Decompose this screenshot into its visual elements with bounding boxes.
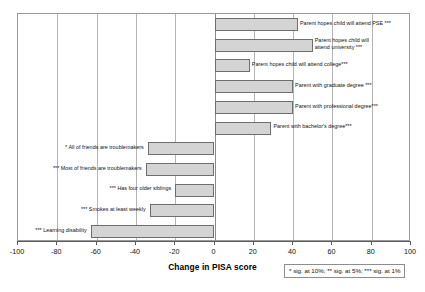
bar-label: *** Learning disability <box>0 227 87 233</box>
bar <box>215 101 294 114</box>
tick-label-100: 100 <box>393 247 425 256</box>
bar <box>215 59 250 72</box>
bar-label: Parent hopes child will attend college**… <box>252 61 348 67</box>
bar-label: Parent hopes child willattend university… <box>315 37 369 50</box>
bar <box>215 122 272 135</box>
significance-note: * sig. at 10%; ** sig. at 5%; *** sig. a… <box>284 264 405 278</box>
bar <box>215 39 313 52</box>
bar-label-line: Parent hopes child will attend college**… <box>252 61 348 67</box>
bar-label: *** Most of friends are troublemakers <box>0 165 142 171</box>
bar-label-line: Parent hopes child will attend PSE *** <box>300 20 391 26</box>
tick-label--80: -80 <box>39 247 73 256</box>
bar-label-line: Parent with professional degree*** <box>295 103 378 109</box>
bar <box>148 142 215 155</box>
tick-label-20: 20 <box>236 247 270 256</box>
tick-mark--80 <box>56 241 57 245</box>
tick-mark--20 <box>174 241 175 245</box>
tick-mark--60 <box>96 241 97 245</box>
bar <box>175 184 214 197</box>
bar <box>215 80 294 93</box>
bar-label-line: *** Most of friends are troublemakers <box>0 165 142 171</box>
bar-label-line: Parent hopes child will <box>315 37 369 43</box>
bar <box>91 225 215 238</box>
bar-label: *** Has four older siblings <box>0 185 171 191</box>
bar <box>146 163 215 176</box>
tick-label-60: 60 <box>314 247 348 256</box>
tick-mark-60 <box>331 241 332 245</box>
gridline-80 <box>372 14 373 240</box>
bar-label-line: Parent with bachelor's degree*** <box>273 123 351 129</box>
tick-mark-40 <box>292 241 293 245</box>
bar-label: Parent with graduate degree *** <box>295 82 371 88</box>
tick-label-80: 80 <box>354 247 388 256</box>
bar-label: *** Smokes at least weekly <box>0 206 146 212</box>
tick-label--60: -60 <box>79 247 113 256</box>
tick-mark-20 <box>253 241 254 245</box>
bar-label-line: *** Has four older siblings <box>0 185 171 191</box>
bar <box>150 204 215 217</box>
tick-mark--40 <box>135 241 136 245</box>
bar-label: Parent with bachelor's degree*** <box>273 123 351 129</box>
bar-label: * All of friends are troublemakers <box>0 144 144 150</box>
bar-label-line: attend university *** <box>315 44 369 50</box>
tick-label-0: 0 <box>197 247 231 256</box>
bar-label-line: * All of friends are troublemakers <box>0 144 144 150</box>
bar-label-line: *** Learning disability <box>0 227 87 233</box>
bar-label: Parent hopes child will attend PSE *** <box>300 20 391 26</box>
tick-mark-100 <box>410 241 411 245</box>
tick-label--100: -100 <box>0 247 34 256</box>
bar <box>215 18 299 31</box>
tick-mark--100 <box>17 241 18 245</box>
tick-label-40: 40 <box>275 247 309 256</box>
bar-label: Parent with professional degree*** <box>295 103 378 109</box>
tick-mark-80 <box>371 241 372 245</box>
tick-label--40: -40 <box>118 247 152 256</box>
pisa-score-bar-chart: Parent hopes child will attend PSE ***Pa… <box>0 0 425 292</box>
bar-label-line: Parent with graduate degree *** <box>295 82 371 88</box>
tick-mark-0 <box>214 241 215 245</box>
tick-label--20: -20 <box>157 247 191 256</box>
bar-label-line: *** Smokes at least weekly <box>0 206 146 212</box>
